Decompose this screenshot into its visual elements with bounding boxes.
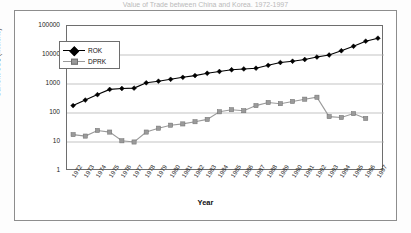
data-point-dprk xyxy=(193,120,197,124)
y-axis-tick-label: 100000 xyxy=(20,22,60,29)
square-marker xyxy=(63,61,85,62)
legend-item-rok[interactable]: ROK xyxy=(63,45,119,56)
data-point-rok xyxy=(205,71,210,76)
data-point-dprk xyxy=(364,116,368,120)
data-point-rok xyxy=(132,86,137,91)
data-point-dprk xyxy=(71,132,75,136)
data-point-dprk xyxy=(120,139,124,143)
data-point-dprk xyxy=(254,103,258,107)
data-point-rok xyxy=(193,73,198,78)
data-point-rok xyxy=(156,79,161,84)
data-point-rok xyxy=(71,103,76,108)
y-axis-tick-label: 1000 xyxy=(20,80,60,87)
data-point-dprk xyxy=(169,123,173,127)
data-point-rok xyxy=(376,36,381,41)
y-axis-tick-label: 10 xyxy=(20,138,60,145)
data-point-dprk xyxy=(217,110,221,114)
legend-item-dprk[interactable]: DPRK xyxy=(63,56,119,67)
data-point-rok xyxy=(327,53,332,58)
data-point-dprk xyxy=(229,108,233,112)
data-point-dprk xyxy=(83,134,87,138)
diamond-marker xyxy=(63,50,85,51)
x-axis-title: Year xyxy=(0,198,411,207)
data-point-dprk xyxy=(156,126,160,130)
y-axis-tick-label: 10000 xyxy=(20,51,60,58)
series-line-dprk xyxy=(73,97,366,142)
data-point-rok xyxy=(107,87,112,92)
data-point-rok xyxy=(302,57,307,62)
data-point-rok xyxy=(83,98,88,103)
data-point-dprk xyxy=(278,102,282,106)
data-point-rok xyxy=(229,67,234,72)
legend-label: ROK xyxy=(88,47,102,54)
data-point-dprk xyxy=(303,97,307,101)
data-point-rok xyxy=(144,80,149,85)
data-point-dprk xyxy=(351,112,355,116)
data-point-rok xyxy=(266,63,271,68)
data-point-dprk xyxy=(144,130,148,134)
data-point-rok xyxy=(290,59,295,64)
chart-figure: Value of Trade between China and Korea, … xyxy=(0,0,411,233)
data-point-dprk xyxy=(205,117,209,121)
data-point-rok xyxy=(363,39,368,44)
chart-title-clipped: Value of Trade between China and Korea, … xyxy=(0,0,411,7)
data-point-dprk xyxy=(339,115,343,119)
data-point-rok xyxy=(254,66,259,71)
data-point-rok xyxy=(95,92,100,97)
data-point-rok xyxy=(339,48,344,53)
data-point-dprk xyxy=(266,100,270,104)
y-axis-tick-label: 100 xyxy=(20,109,60,116)
y-axis-tick-label: 1 xyxy=(20,167,60,174)
y-axis-title: Current US$ (millions) xyxy=(0,28,1,97)
data-point-rok xyxy=(168,77,173,82)
data-point-dprk xyxy=(108,130,112,134)
data-point-rok xyxy=(351,44,356,49)
data-point-dprk xyxy=(181,122,185,126)
data-point-rok xyxy=(217,69,222,74)
data-point-dprk xyxy=(315,95,319,99)
data-point-rok xyxy=(278,60,283,65)
data-point-rok xyxy=(180,75,185,80)
legend-label: DPRK xyxy=(88,58,106,65)
data-point-rok xyxy=(119,86,124,91)
data-point-rok xyxy=(241,67,246,72)
data-point-dprk xyxy=(242,109,246,113)
data-point-dprk xyxy=(327,115,331,119)
chart-legend[interactable]: ROKDPRK xyxy=(59,41,120,69)
data-point-dprk xyxy=(290,99,294,103)
data-point-dprk xyxy=(95,128,99,132)
data-point-dprk xyxy=(132,140,136,144)
